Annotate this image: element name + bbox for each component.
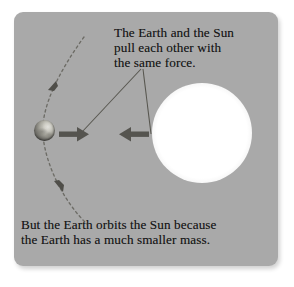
orbit-direction-arrowhead-upper bbox=[48, 81, 58, 91]
caption-top-text: The Earth and the Sun pull each other wi… bbox=[114, 25, 274, 71]
diagram-root: The Earth and the Sun pull each other wi… bbox=[0, 0, 294, 287]
caption-leader-lines bbox=[82, 69, 151, 134]
caption-bottom-text: But the Earth orbits the Sun because the… bbox=[21, 217, 275, 247]
illustration-panel: The Earth and the Sun pull each other wi… bbox=[14, 12, 278, 266]
sun-force-arrow bbox=[119, 127, 149, 141]
earth-surface-shading bbox=[34, 120, 55, 141]
earth-body bbox=[34, 120, 55, 141]
orbit-direction-arrowhead-lower bbox=[54, 180, 64, 192]
